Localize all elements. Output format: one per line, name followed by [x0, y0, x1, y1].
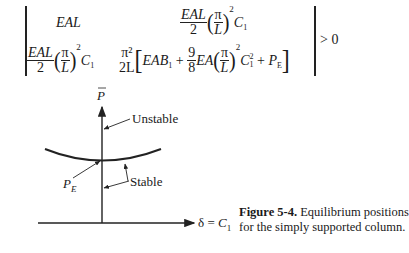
y-axis-label: P — [97, 88, 105, 104]
caption-label: Figure 5-4. — [239, 205, 297, 219]
x-axis-label: δ = C1 — [198, 215, 231, 233]
equilibrium-curve — [45, 149, 161, 161]
figure-caption: Figure 5-4. Equilibrium positions for th… — [239, 205, 409, 235]
annotation-pe: PE — [63, 176, 76, 194]
annotation-unstable: Unstable — [132, 111, 178, 127]
annotation-stable: Stable — [130, 174, 163, 190]
